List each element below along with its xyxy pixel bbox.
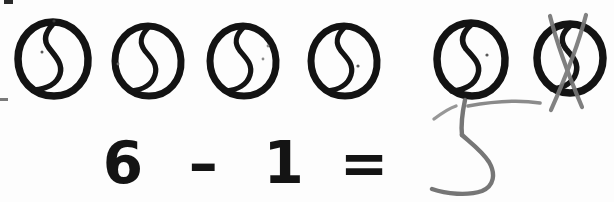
equation-minus-operator: – (177, 134, 229, 192)
worksheet-page: 6 – 1 = (0, 0, 614, 202)
equation-subtrahend: 1 (261, 134, 307, 192)
cross-out-x-icon (550, 15, 586, 110)
equation-equals-sign: = (338, 134, 390, 192)
pencil-connector-stroke (434, 101, 540, 119)
equation-minuend: 6 (100, 134, 146, 192)
equation-row: 6 – 1 = (100, 128, 390, 198)
